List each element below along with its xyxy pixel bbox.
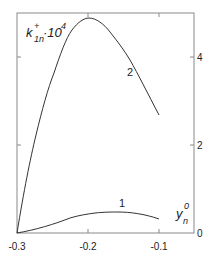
line-chart: -0.3 -0.2 -0.1 0 2 4 2 1 k + 1n ·10 4 y … <box>0 0 212 258</box>
x-tick-label: -0.1 <box>150 241 168 252</box>
x-axis-title: y 0 n <box>175 201 189 226</box>
x-tick-label: -0.3 <box>8 241 26 252</box>
plot-frame <box>17 13 194 233</box>
svg-text:n: n <box>183 216 188 226</box>
y-tick-label: 2 <box>197 140 203 151</box>
svg-text:4: 4 <box>61 21 66 31</box>
svg-text:k: k <box>26 25 34 40</box>
y-tick-label: 0 <box>197 228 203 239</box>
y-ticks <box>17 57 194 145</box>
x-tick-label: -0.2 <box>79 241 97 252</box>
series-1-label: 1 <box>119 197 125 209</box>
series-2-label: 2 <box>127 66 133 78</box>
svg-text:+: + <box>34 21 39 31</box>
y-axis-title: k + 1n ·10 4 <box>26 21 66 44</box>
svg-text:0: 0 <box>184 201 189 211</box>
series-2-line <box>17 18 159 233</box>
svg-text:·10: ·10 <box>43 25 63 40</box>
y-tick-label: 4 <box>197 52 203 63</box>
